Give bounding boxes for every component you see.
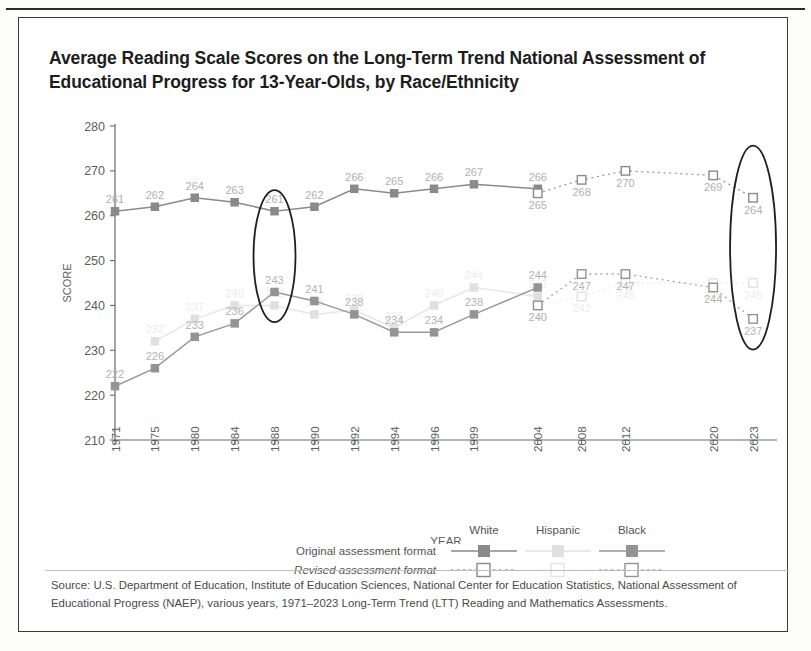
data-label: 234 (425, 314, 443, 326)
data-point-white-original (310, 202, 319, 211)
data-label: 269 (704, 181, 722, 193)
data-point-hispanic-original (533, 292, 542, 301)
data-point-white-original (470, 180, 479, 189)
data-label: 244 (529, 269, 547, 281)
data-point-white-original (350, 185, 359, 194)
data-label: 238 (465, 296, 483, 308)
data-point-white-revised (749, 194, 758, 203)
data-label: 267 (465, 166, 483, 178)
data-point-black-original (470, 310, 479, 319)
data-point-black-original (430, 328, 439, 337)
legend-swatch-hispanic-original (521, 543, 595, 559)
legend-column-black: Black (595, 524, 669, 536)
legend-swatch-black-original (595, 543, 669, 559)
source-divider (45, 570, 789, 571)
data-point-black-original (151, 364, 160, 373)
data-label: 264 (186, 180, 204, 192)
y-tick-label: 210 (84, 434, 105, 448)
data-point-black-revised (709, 283, 718, 292)
data-label: 244 (465, 269, 483, 281)
page-top-rule (6, 8, 805, 10)
data-label: 244 (704, 293, 722, 305)
data-label: 242 (572, 302, 590, 314)
x-tick-label: 1994 (389, 426, 401, 452)
y-tick-label: 280 (84, 120, 105, 134)
x-tick-label: 2023 (748, 426, 760, 452)
data-point-hispanic-revised (749, 279, 758, 288)
data-label: 236 (225, 305, 243, 317)
legend-column-hispanic: Hispanic (521, 524, 595, 536)
x-tick-label: 2020 (708, 426, 720, 452)
data-point-black-original (111, 382, 120, 391)
data-label: 240 (529, 311, 547, 323)
x-tick-label: 1992 (349, 426, 361, 452)
data-label: 266 (345, 171, 363, 183)
data-point-black-revised (621, 270, 630, 279)
data-label: 262 (146, 189, 164, 201)
data-label: 245 (744, 289, 762, 301)
page-title: Average Reading Scale Scores on the Long… (49, 46, 749, 94)
chart-plot-area: 280270260250240230220210SCORE19711975198… (49, 114, 789, 544)
data-label: 265 (385, 175, 403, 187)
data-label: 265 (529, 199, 547, 211)
data-label: 226 (146, 350, 164, 362)
data-point-hispanic-original (470, 283, 479, 292)
data-point-white-revised (709, 171, 718, 180)
x-tick-label: 1975 (149, 426, 161, 452)
y-tick-label: 230 (84, 344, 105, 358)
data-label: 240 (225, 287, 243, 299)
data-label: 270 (616, 177, 634, 189)
data-label: 266 (529, 171, 547, 183)
data-point-white-revised (533, 189, 542, 198)
data-point-hispanic-original (151, 337, 160, 346)
data-point-white-original (111, 207, 120, 216)
data-point-black-original (270, 288, 279, 297)
x-tick-label: 2012 (620, 426, 632, 452)
data-label: 264 (744, 204, 762, 216)
data-point-hispanic-original (270, 301, 279, 310)
x-tick-label: 2004 (532, 426, 544, 452)
data-point-white-revised (577, 176, 586, 185)
data-label: 263 (225, 184, 243, 196)
data-label: 261 (265, 193, 283, 205)
figure-card: Average Reading Scale Scores on the Long… (18, 17, 788, 632)
y-tick-label: 240 (84, 299, 105, 313)
data-point-black-revised (577, 270, 586, 279)
legend-row-original: Original assessment format (251, 545, 436, 557)
data-label: 234 (385, 314, 403, 326)
data-label: 266 (425, 171, 443, 183)
data-label: 243 (265, 274, 283, 286)
source-note: Source: U.S. Department of Education, In… (51, 576, 766, 613)
data-point-hispanic-revised (577, 292, 586, 301)
data-point-black-original (230, 319, 239, 328)
data-point-hispanic-original (310, 310, 319, 319)
data-point-white-original (151, 202, 160, 211)
x-tick-label: 1988 (269, 426, 281, 452)
x-tick-label: 1990 (309, 426, 321, 452)
y-tick-label: 250 (84, 254, 105, 268)
x-tick-label: 1996 (429, 426, 441, 452)
x-tick-label: 2008 (576, 426, 588, 452)
figure-root: Average Reading Scale Scores on the Long… (0, 0, 811, 651)
data-label: 241 (305, 283, 323, 295)
data-point-white-original (230, 198, 239, 207)
data-label: 237 (744, 325, 762, 337)
x-tick-label: 1984 (229, 426, 241, 452)
data-point-black-original (191, 333, 200, 342)
y-axis-title: SCORE (61, 263, 73, 302)
x-tick-label: 1971 (110, 426, 122, 452)
data-label: 233 (186, 319, 204, 331)
data-point-black-revised (749, 315, 758, 324)
data-label: 262 (305, 189, 323, 201)
data-point-black-original (350, 310, 359, 319)
y-tick-label: 270 (84, 164, 105, 178)
chart-legend: White Hispanic Black Original assessment… (251, 524, 671, 576)
data-label: 247 (616, 280, 634, 292)
data-label: 232 (146, 323, 164, 335)
legend-swatch-white-original (447, 543, 521, 559)
data-label: 222 (106, 368, 124, 380)
data-label: 238 (345, 296, 363, 308)
x-tick-label: 1980 (189, 426, 201, 452)
legend-column-white: White (447, 524, 521, 536)
data-point-black-original (390, 328, 399, 337)
